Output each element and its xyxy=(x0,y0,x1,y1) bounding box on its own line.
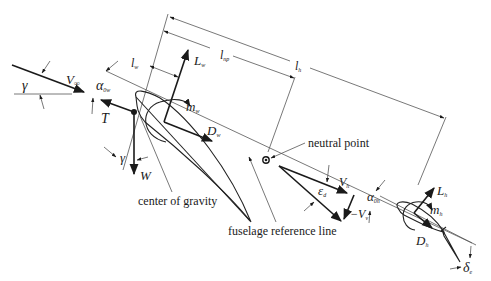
alpha0w-arrow-upper xyxy=(106,61,118,71)
delta-e-arrow-bottom xyxy=(450,267,461,269)
neutral-point-dot xyxy=(265,159,268,162)
l-np-label: lnp xyxy=(220,48,229,62)
gamma-top-label: γ xyxy=(22,78,28,93)
np-extension-line xyxy=(268,77,295,152)
weight-label: W xyxy=(140,168,152,183)
lh-dimension-line-left xyxy=(170,17,290,61)
elevator-deflection-label: δe xyxy=(463,260,473,275)
gamma-bottom-label: γ xyxy=(120,150,126,165)
alpha-0h-label: α0h xyxy=(367,189,380,204)
tail-moment-label: mh xyxy=(430,202,442,217)
thrust-label: T xyxy=(101,111,110,126)
tail-lift-label: Lh xyxy=(436,183,447,198)
gamma-bottom-arrow-left xyxy=(104,147,116,157)
wing-drag-label: Dw xyxy=(206,123,220,138)
resultant-velocity-vector xyxy=(279,166,341,221)
alpha0w-arrow-lower xyxy=(92,98,93,114)
lw-dimension-line xyxy=(150,66,178,77)
velocity-triangle xyxy=(279,165,354,221)
delta-e-arrow-top xyxy=(470,246,471,258)
alpha0h-arrow-bottom xyxy=(369,211,370,223)
elevator xyxy=(442,229,460,262)
lnp-dimension-line-left xyxy=(164,31,210,48)
v-h-label: Vh xyxy=(339,175,349,189)
v-inf-label: V∞ xyxy=(66,72,80,88)
fuselage-reference-line xyxy=(106,71,472,243)
neutral-point-label: neutral point xyxy=(308,136,370,150)
wing-moment-arc xyxy=(146,99,190,142)
tail-drag-label: Dh xyxy=(415,233,428,248)
l-h-label: lh xyxy=(295,59,301,73)
fuselage-ref-leader xyxy=(249,157,276,222)
alpha0h-arrow-top xyxy=(376,180,385,191)
tail-extension-line xyxy=(418,117,446,185)
gamma-bottom-arrow-right xyxy=(137,157,148,160)
wing-lift-label: Lw xyxy=(193,53,205,68)
l-w-label: lw xyxy=(131,56,138,70)
aircraft-free-body-diagram: γ V∞ α0w T lw lnp lh Lw mw Dw γ W center… xyxy=(0,0,491,281)
wing-drag-vector xyxy=(164,122,212,141)
fuselage-reference-line-label: fuselage reference line xyxy=(228,224,337,238)
horizontal-tail xyxy=(397,188,471,269)
center-of-gravity-label: center of gravity xyxy=(138,194,217,208)
epsilon-arrow-bottom xyxy=(304,202,314,211)
tail-reference-line xyxy=(380,196,476,245)
alpha-0w-label: α0w xyxy=(96,78,110,93)
gamma-top-arrow-lower xyxy=(40,95,44,109)
minus-v-v-label: −Vv xyxy=(350,207,368,221)
lh-dimension-line-right xyxy=(310,68,444,118)
epsilon-arrow-top xyxy=(327,165,329,182)
wing-moment-label: mw xyxy=(186,99,199,114)
gamma-top-arrow-upper xyxy=(42,61,50,73)
